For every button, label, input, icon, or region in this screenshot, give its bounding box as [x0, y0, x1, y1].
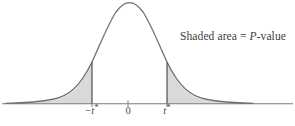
axis-label-right-critical: t*	[163, 105, 170, 116]
t-distribution-figure	[0, 0, 295, 126]
density-curve	[6, 3, 253, 104]
shaded-area-annotation: Shaded area = P-value	[180, 30, 286, 42]
axis-label-center-zero: 0	[125, 105, 130, 116]
star-symbol: *	[94, 102, 99, 112]
annotation-prefix: Shaded area =	[180, 30, 250, 42]
axis-label-left-critical: −t*	[85, 105, 98, 116]
star-symbol: *	[166, 102, 171, 112]
annotation-suffix: -value	[257, 30, 286, 42]
annotation-italic-symbol: P	[250, 30, 257, 42]
